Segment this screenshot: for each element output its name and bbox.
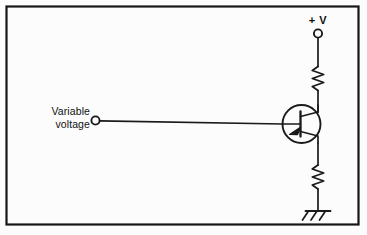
input-voltage-label-line1: Variable [51, 105, 90, 117]
ground-hatch-3 [320, 211, 326, 220]
supply-voltage-label: + V [298, 14, 338, 27]
collector-resistor-zigzag [312, 67, 323, 91]
input-terminal-circle [91, 116, 99, 124]
supply-terminal-circle [314, 29, 322, 37]
emitter-resistor-zigzag [312, 165, 323, 189]
ground-hatch-2 [311, 211, 317, 220]
transistor-emitter-arrowhead [290, 127, 301, 135]
schematic-figure: Variablevoltage + V [0, 0, 367, 235]
transistor-collector-lead [301, 112, 319, 117]
base-wire [100, 121, 283, 124]
input-voltage-label: Variablevoltage [12, 105, 90, 130]
input-voltage-label-line2: voltage [55, 118, 90, 130]
ground-hatch-1 [303, 211, 309, 220]
